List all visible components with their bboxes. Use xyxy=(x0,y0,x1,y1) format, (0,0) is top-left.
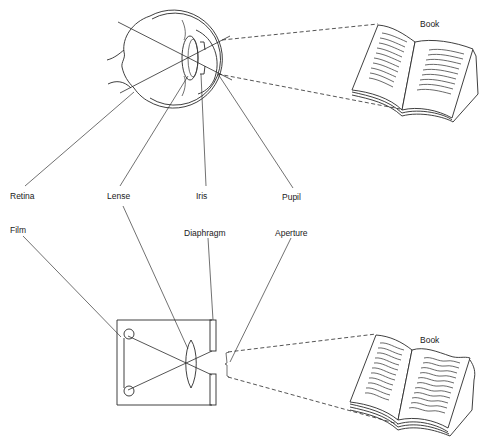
film-leader xyxy=(23,236,121,337)
label-iris: Iris xyxy=(196,191,207,201)
retina-leader xyxy=(25,92,134,186)
label-pupil: Pupil xyxy=(282,192,301,202)
book-illustration-top xyxy=(352,25,478,122)
eye-illustration xyxy=(107,10,232,108)
aperture-leader xyxy=(230,238,291,362)
eye-camera-diagram: Retina Lense Iris Pupil xyxy=(0,0,484,441)
lense-leader-camera xyxy=(123,206,188,349)
camera-ray-top xyxy=(228,334,376,352)
diaphragm-leader xyxy=(208,238,213,320)
label-film: Film xyxy=(10,225,26,235)
label-book-bottom: Book xyxy=(420,335,440,345)
book-illustration-bottom xyxy=(350,335,475,436)
label-book-top: Book xyxy=(420,19,440,29)
label-retina: Retina xyxy=(10,191,35,201)
label-diaphragm: Diaphragm xyxy=(184,228,226,238)
label-lense: Lense xyxy=(107,191,130,201)
eye-ray-top xyxy=(222,24,378,40)
lense-leader xyxy=(120,76,188,186)
camera-illustration xyxy=(117,320,229,405)
label-aperture: Aperture xyxy=(275,228,308,238)
pupil-leader xyxy=(218,74,293,188)
